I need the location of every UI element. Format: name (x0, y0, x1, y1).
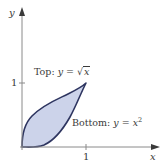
top-curve-label: Top: y = √x (34, 66, 90, 77)
bottom-curve-eq: = (119, 117, 133, 128)
y-axis-arrow-icon (19, 7, 25, 16)
x-axis-arrow-icon (151, 144, 160, 150)
region-diagram (0, 0, 168, 168)
bottom-curve-exponent: 2 (138, 116, 142, 124)
bottom-curve-prefix: Bottom: (72, 117, 113, 128)
bottom-curve-label: Bottom: y = x2 (72, 117, 142, 128)
x-axis-label: x (150, 152, 156, 162)
y-tick-label: 1 (11, 78, 17, 88)
x-tick-label: 1 (83, 152, 89, 162)
shaded-region (22, 83, 86, 147)
top-curve-arg: x (83, 66, 90, 77)
y-axis-label: y (9, 8, 15, 18)
top-curve-prefix: Top: (34, 66, 58, 77)
top-curve-eq: = (63, 66, 77, 77)
